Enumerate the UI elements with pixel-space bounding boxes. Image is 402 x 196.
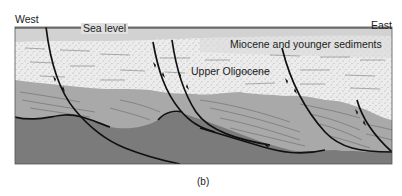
west-label: West bbox=[15, 14, 39, 25]
east-label: East bbox=[371, 20, 392, 31]
cross-section-drawing bbox=[0, 0, 402, 196]
figure-caption: (b) bbox=[197, 177, 209, 187]
sea-level-label: Sea level bbox=[81, 23, 128, 34]
miocene-label: Miocene and younger sediments bbox=[230, 39, 382, 50]
geologic-cross-section: West East Sea level Miocene and younger … bbox=[0, 0, 402, 196]
upper-oligocene-label: Upper Oligocene bbox=[191, 66, 270, 77]
